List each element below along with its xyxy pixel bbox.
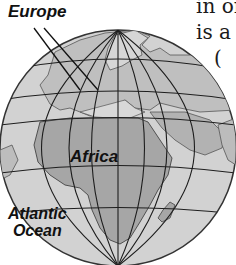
atlantic-ocean-label: Atlantic Ocean (8, 205, 67, 239)
background-text-line1: in or (196, 0, 236, 18)
background-text-line2: is a (196, 20, 231, 44)
atlantic-label-line1: Atlantic (8, 205, 67, 222)
background-text-line3: ( (214, 46, 222, 70)
africa-label: Africa (70, 147, 118, 167)
atlantic-label-line2: Ocean (8, 222, 67, 239)
globe-figure: Europe Africa Atlantic Ocean in or is a … (0, 0, 236, 265)
europe-label: Europe (8, 2, 67, 22)
